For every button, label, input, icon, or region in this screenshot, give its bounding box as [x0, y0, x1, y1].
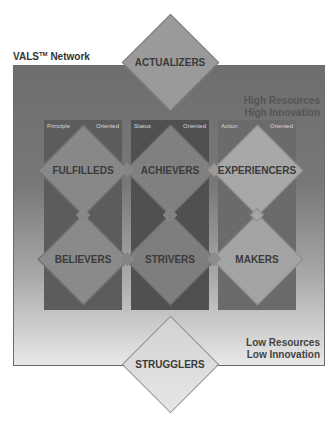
- column-label-left: Action: [221, 123, 238, 129]
- diagram-title: VALSTM Network: [13, 51, 90, 62]
- column-label-right: Oriented: [96, 123, 119, 129]
- trademark-mark: TM: [39, 51, 48, 57]
- low-corner-label: Low Resources Low Innovation: [246, 337, 320, 361]
- low-resources-label: Low Resources: [246, 337, 320, 349]
- high-resources-label: High Resources: [244, 95, 320, 107]
- experiencers-label: EXPERIENCERS: [218, 165, 296, 176]
- makers-label: MAKERS: [235, 254, 278, 265]
- fulfilleds-label: FULFILLEDS: [52, 165, 113, 176]
- believers-label: BELIEVERS: [55, 254, 112, 265]
- column-label-left: Principle: [47, 123, 70, 129]
- low-innovation-label: Low Innovation: [246, 349, 320, 361]
- achievers-label: ACHIEVERS: [141, 165, 199, 176]
- high-innovation-label: High Innovation: [244, 107, 320, 119]
- column-label-right: Oriented: [183, 123, 206, 129]
- strivers-label: STRIVERS: [145, 254, 195, 265]
- title-text: VALS: [13, 51, 39, 62]
- strugglers-label: STRUGGLERS: [135, 359, 204, 370]
- column-label-right: Oriented: [270, 123, 293, 129]
- high-corner-label: High Resources High Innovation: [244, 95, 320, 119]
- title-suffix: Network: [48, 51, 90, 62]
- column-label-left: Status: [134, 123, 151, 129]
- actualizers-label: ACTUALIZERS: [135, 57, 206, 68]
